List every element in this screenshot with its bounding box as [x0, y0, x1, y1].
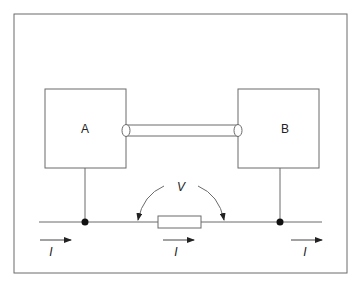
shielded-cable [122, 125, 242, 137]
current-label-right: I [303, 245, 307, 259]
outer-frame [14, 14, 347, 273]
resistor [158, 216, 201, 228]
voltage-label: V [177, 180, 186, 194]
diagram-canvas: A B V I I I [0, 0, 360, 285]
box-b-label: B [281, 122, 289, 136]
current-label-center: I [174, 245, 178, 259]
box-b [238, 89, 319, 168]
current-label-left: I [49, 245, 53, 259]
junction-dot-right [277, 219, 284, 226]
junction-dot-left [82, 219, 89, 226]
box-a-label: A [81, 122, 89, 136]
